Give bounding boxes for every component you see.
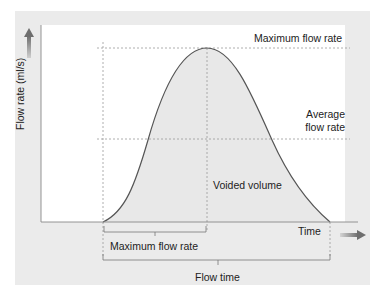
y-axis-label: Flow rate (ml/s) (14, 58, 26, 130)
voided-volume-label: Voided volume (213, 179, 282, 191)
time-to-max-label: Maximum flow rate (110, 240, 198, 252)
flow-time-label: Flow time (195, 271, 240, 283)
max-flow-rate-label: Maximum flow rate (254, 32, 342, 44)
average-flow-rate-label-1: Average (306, 108, 345, 120)
diagram-canvas (0, 0, 383, 301)
average-flow-rate-label-2: flow rate (305, 121, 345, 133)
uroflowmetry-diagram: Flow rate (ml/s) Maximum flow rate Avera… (0, 0, 383, 301)
x-axis-label: Time (298, 225, 321, 237)
